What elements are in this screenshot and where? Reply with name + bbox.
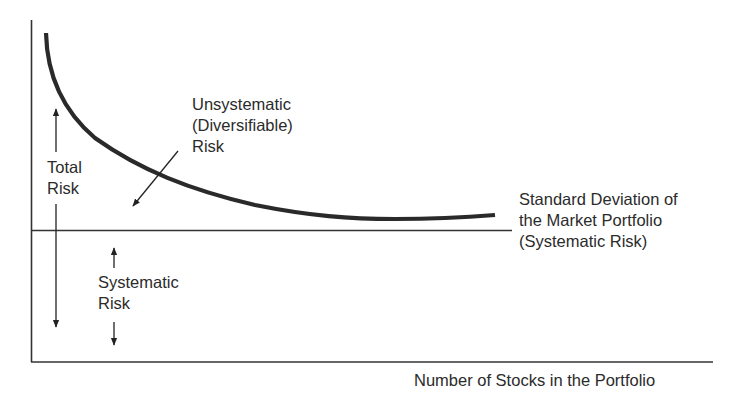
market-sd-label-line-1: Standard Deviation of: [519, 189, 678, 210]
market-sd-label-line-2: the Market Portfolio: [519, 210, 678, 231]
unsystematic-label-line-2: (Diversifiable): [192, 115, 293, 136]
systematic-label-line-2: Risk: [98, 293, 179, 314]
unsystematic-label-line-3: Risk: [192, 136, 293, 157]
total-label-line-1: Total: [47, 157, 82, 178]
total-label-line-2: Risk: [47, 178, 82, 199]
systematic-risk-label: Systematic Risk: [98, 272, 179, 314]
unsystematic-risk-label: Unsystematic (Diversifiable) Risk: [192, 94, 293, 157]
unsystematic-label-line-1: Unsystematic: [192, 94, 293, 115]
x-axis-label: Number of Stocks in the Portfolio: [414, 370, 655, 391]
market-sd-label: Standard Deviation of the Market Portfol…: [519, 189, 678, 252]
total-risk-label: Total Risk: [47, 157, 82, 199]
systematic-label-line-1: Systematic: [98, 272, 179, 293]
market-sd-label-line-3: (Systematic Risk): [519, 231, 678, 252]
